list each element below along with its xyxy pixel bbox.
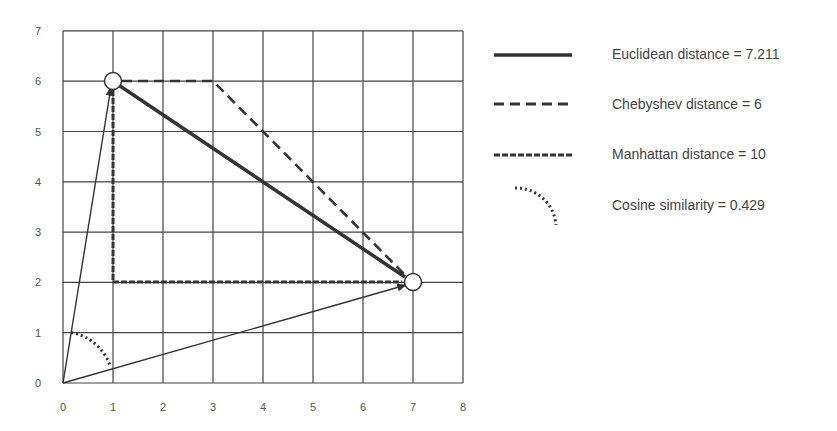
vector-b — [63, 285, 406, 383]
x-axis-ticks: 012345678 — [60, 401, 466, 413]
manhattan-path — [113, 90, 402, 282]
y-tick-label: 0 — [35, 377, 41, 389]
x-tick-label: 3 — [210, 401, 216, 413]
cosine-arc — [71, 333, 110, 366]
y-axis-ticks: 01234567 — [35, 25, 41, 389]
x-tick-label: 5 — [310, 401, 316, 413]
y-tick-label: 1 — [35, 327, 41, 339]
legend — [494, 55, 572, 225]
legend-manhattan-label: Manhattan distance = 10 — [612, 146, 766, 162]
x-tick-label: 0 — [60, 401, 66, 413]
x-tick-label: 7 — [410, 401, 416, 413]
legend-cosine-label: Cosine similarity = 0.429 — [612, 197, 765, 213]
legend-chebyshev-label: Chebyshev distance = 6 — [612, 96, 762, 112]
y-tick-label: 5 — [35, 126, 41, 138]
x-tick-label: 1 — [110, 401, 116, 413]
legend-cosine-swatch — [515, 188, 556, 225]
x-tick-label: 6 — [360, 401, 366, 413]
point-a — [105, 73, 122, 90]
legend-euclidean-label: Euclidean distance = 7.211 — [612, 46, 779, 62]
point-b — [405, 274, 422, 291]
x-tick-label: 2 — [160, 401, 166, 413]
y-tick-label: 6 — [35, 75, 41, 87]
grid — [63, 31, 463, 383]
x-tick-label: 4 — [260, 401, 266, 413]
y-tick-label: 2 — [35, 276, 41, 288]
y-tick-label: 3 — [35, 226, 41, 238]
y-tick-label: 7 — [35, 25, 41, 37]
y-tick-label: 4 — [35, 176, 41, 188]
distance-chart: 012345678 01234567 — [0, 0, 837, 431]
x-tick-label: 8 — [460, 401, 466, 413]
